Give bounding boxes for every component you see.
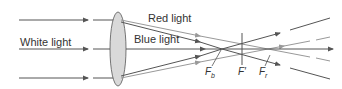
focal-point-red-label: Fr — [259, 66, 267, 79]
focal-point-prime-label: F′ — [238, 66, 246, 77]
focal-point-blue-label: Fb — [205, 66, 215, 79]
fr-pointer — [265, 55, 270, 66]
red-light-label: Red light — [148, 12, 191, 24]
blue-rays — [121, 18, 333, 79]
incoming-rays — [19, 20, 118, 78]
blue-light-label: Blue light — [134, 33, 179, 45]
white-light-label: White light — [20, 36, 71, 48]
